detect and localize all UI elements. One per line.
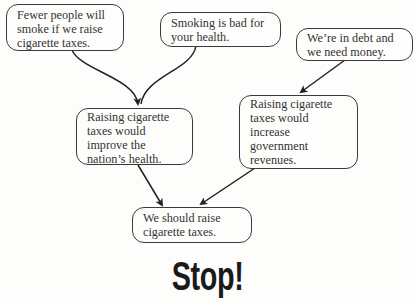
subconclusion-text: Raising cigarette taxes would increase g… [250,97,349,167]
conclusion-box: We should raise cigarette taxes. [132,207,252,243]
premise-box-bad-health: Smoking is bad for your health. [160,12,281,47]
arrow-a-to-d [72,50,138,104]
subconclusion-text: Raising cigarette taxes would improve th… [87,110,184,166]
conclusion-text: We should raise cigarette taxes. [143,211,243,239]
arrow-c-to-e [301,60,345,92]
document-page: Fewer people will smoke if we raise ciga… [0,0,415,303]
premise-text: Fewer people will smoke if we raise ciga… [17,8,115,50]
premise-text: Smoking is bad for your health. [171,16,272,44]
subconclusion-box-health: Raising cigarette taxes would improve th… [76,108,193,165]
premise-box-debt: We’re in debt and we need money. [296,28,413,61]
arrow-d-to-f [138,165,162,205]
arrow-e-to-f [201,168,255,204]
arrow-b-to-d [141,46,196,104]
premise-text: We’re in debt and we need money. [307,31,404,59]
subconclusion-box-revenue: Raising cigarette taxes would increase g… [239,95,358,169]
premise-box-fewer-smokers: Fewer people will smoke if we raise ciga… [6,4,124,51]
stop-heading: Stop! [58,252,357,300]
